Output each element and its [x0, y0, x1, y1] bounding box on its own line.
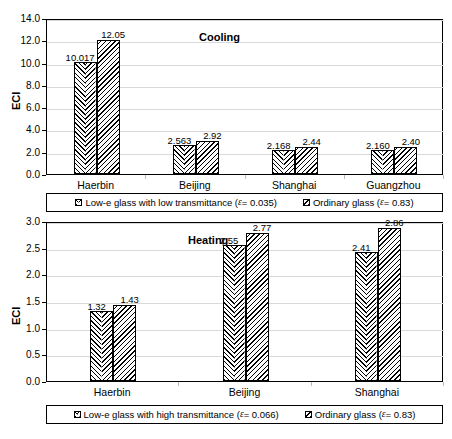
bar-beijing-series1[interactable]	[246, 233, 269, 381]
bar-beijing-series0[interactable]	[223, 245, 246, 381]
x-tick-mark	[443, 175, 444, 179]
bar-beijing-series1[interactable]	[196, 141, 219, 174]
x-axis-label-haerbin: Haerbin	[77, 180, 114, 191]
y-tick-label: 1.5	[2, 297, 40, 307]
cooling-plot-area: Cooling 10.01712.052.5632.922.1682.442.1…	[46, 19, 443, 175]
bar-value-label: 12.05	[101, 30, 125, 40]
x-axis-label-beijing: Beijing	[179, 180, 211, 191]
y-tick-label: 6.0	[2, 103, 40, 113]
cooling-chart-title: Cooling	[199, 31, 240, 43]
x-tick-mark	[145, 175, 146, 179]
y-tick-label: 2.0	[2, 270, 40, 280]
bar-value-label: 1.43	[120, 295, 139, 305]
bar-haerbin-series1[interactable]	[113, 305, 136, 381]
bar-value-label: 2.40	[402, 137, 421, 147]
x-axis-label-shanghai: Shanghai	[355, 387, 399, 398]
y-tick-label: 2.0	[2, 148, 40, 158]
legend-label-prefix: Low-e glass with low transmittance (	[85, 197, 238, 208]
y-tick-label: 4.0	[2, 125, 40, 135]
x-axis-label-beijing: Beijing	[229, 387, 261, 398]
y-tick-label: 1.0	[2, 324, 40, 334]
bar-value-label: 2.77	[253, 223, 272, 233]
bar-value-label: 2.168	[267, 141, 291, 151]
cooling-legend-item-0[interactable]: Low-e glass with low transmittance (ε = …	[75, 197, 276, 208]
y-tick-label: 0.5	[2, 350, 40, 360]
y-tick-label: 10.0	[2, 59, 40, 69]
y-tick-label: 0.0	[2, 377, 40, 387]
legend-label-suffix: = 0.035)	[242, 197, 277, 208]
x-tick-mark	[443, 382, 444, 386]
bar-value-label: 2.41	[352, 243, 371, 253]
y-tick-label: 14.0	[2, 14, 40, 24]
bar-value-label: 2.86	[385, 218, 404, 228]
legend-swatch-chevron-icon	[75, 199, 82, 206]
gridline	[47, 20, 444, 21]
bar-value-label: 2.92	[203, 131, 222, 141]
bar-haerbin-series0[interactable]	[74, 62, 97, 174]
x-tick-mark	[344, 175, 345, 179]
bar-value-label: 2.44	[302, 137, 321, 147]
heating-legend-item-1[interactable]: Ordinary glass (ε = 0.83)	[305, 409, 416, 420]
y-tick-mark	[42, 175, 46, 176]
heating-legend: Low-e glass with high transmittance (ε =…	[46, 405, 443, 424]
legend-swatch-diagonal-icon	[303, 199, 310, 206]
x-axis-label-shanghai: Shanghai	[272, 180, 316, 191]
legend-swatch-diagonal-icon	[305, 411, 312, 418]
x-axis-label-haerbin: Haerbin	[94, 387, 131, 398]
y-tick-label: 0.0	[2, 170, 40, 180]
bar-haerbin-series1[interactable]	[97, 40, 120, 174]
cooling-legend: Low-e glass with low transmittance (ε = …	[46, 193, 443, 212]
figure-root: ECI 0.02.04.06.08.010.012.014.0 Cooling …	[0, 0, 452, 439]
y-tick-label: 3.0	[2, 217, 40, 227]
bar-shanghai-series0[interactable]	[272, 150, 295, 174]
bar-value-label: 1.32	[87, 302, 106, 312]
bar-guangzhou-series0[interactable]	[371, 150, 394, 174]
bar-value-label: 2.160	[366, 141, 390, 151]
heating-plot-area: Heating 1.321.432.552.772.412.86	[46, 222, 443, 382]
y-tick-label: 8.0	[2, 81, 40, 91]
heating-legend-item-0[interactable]: Low-e glass with high transmittance (ε =…	[74, 409, 279, 420]
bar-haerbin-series0[interactable]	[90, 311, 113, 381]
legend-label-suffix: = 0.066)	[244, 409, 279, 420]
heating-y-axis-label: ECI	[10, 307, 22, 325]
y-tick-label: 12.0	[2, 36, 40, 46]
x-tick-mark	[311, 382, 312, 386]
y-tick-mark	[42, 382, 46, 383]
x-tick-mark	[178, 382, 179, 386]
x-axis-label-guangzhou: Guangzhou	[366, 180, 420, 191]
bar-shanghai-series0[interactable]	[355, 252, 378, 381]
bar-shanghai-series1[interactable]	[378, 228, 401, 381]
bar-guangzhou-series1[interactable]	[394, 147, 417, 174]
x-tick-mark	[245, 175, 246, 179]
legend-label-prefix: Ordinary glass (	[313, 197, 380, 208]
bar-value-label: 2.55	[220, 236, 239, 246]
cooling-legend-item-1[interactable]: Ordinary glass (ε = 0.83)	[303, 197, 414, 208]
legend-swatch-chevron-icon	[74, 411, 81, 418]
legend-label-prefix: Low-e glass with high transmittance (	[84, 409, 240, 420]
legend-label-prefix: Ordinary glass (	[315, 409, 382, 420]
y-tick-label: 2.5	[2, 244, 40, 254]
bar-value-label: 2.563	[167, 136, 191, 146]
legend-label-suffix: = 0.83)	[386, 409, 416, 420]
bar-beijing-series0[interactable]	[173, 145, 196, 174]
bar-value-label: 10.017	[66, 53, 95, 63]
legend-label-suffix: = 0.83)	[384, 197, 414, 208]
bar-shanghai-series1[interactable]	[295, 147, 318, 174]
